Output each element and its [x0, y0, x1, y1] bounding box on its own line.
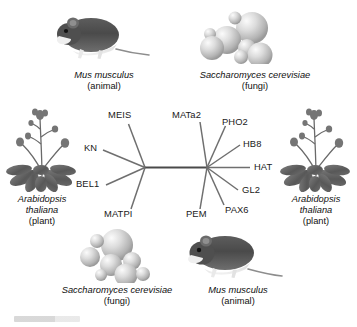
gene-label-PHO2: PHO2 [222, 117, 248, 126]
species-name: Saccharomyces cerevisiae [180, 70, 330, 81]
gene-label-BEL1: BEL1 [76, 179, 99, 188]
gene-label-KN: KN [84, 143, 97, 152]
organism-group: (plant) [276, 216, 356, 227]
organism-group: (fungi) [180, 81, 330, 92]
species-name-line2: thaliana [276, 205, 356, 216]
gene-label-PAX6: PAX6 [225, 205, 249, 214]
organism-group: (animal) [182, 296, 294, 307]
gene-label-MATPI: MATPI [104, 209, 132, 218]
gene-label-HB8: HB8 [243, 139, 262, 148]
gene-label-MEIS: MEIS [108, 110, 131, 119]
mouse-illustration-top [53, 8, 158, 66]
species-name: Mus musculus [48, 70, 160, 81]
yeast-illustration-top [190, 8, 282, 64]
mouse-illustration-bottom [183, 228, 293, 284]
gene-label-PEM: PEM [186, 209, 207, 218]
caption-mouse-bottom: Mus musculus (animal) [182, 285, 294, 307]
organism-group: (fungi) [42, 296, 192, 307]
branch-BEL1 [106, 168, 145, 186]
caption-yeast-bottom: Saccharomyces cerevisiae (fungi) [42, 285, 192, 307]
caption-plant-left: Arabidopsis thaliana (plant) [2, 194, 82, 227]
caption-yeast-top: Saccharomyces cerevisiae (fungi) [180, 70, 330, 92]
gene-label-MATa2: MATa2 [172, 110, 201, 119]
branch-PEM [200, 168, 207, 210]
branch-MATPI [131, 168, 145, 210]
phylogenetic-tree-figure: MEIS KN BEL1 MATPI MATa2 PHO2 HB8 HAT GL… [0, 0, 357, 327]
species-name: Saccharomyces cerevisiae [42, 285, 192, 296]
gene-label-HAT: HAT [254, 162, 272, 171]
gene-label-GL2: GL2 [242, 185, 260, 194]
species-name-line1: Arabidopsis [2, 194, 82, 205]
organism-group: (plant) [2, 216, 82, 227]
caption-plant-right: Arabidopsis thaliana (plant) [276, 194, 356, 227]
species-name: Mus musculus [182, 285, 294, 296]
species-name-line1: Arabidopsis [276, 194, 356, 205]
organism-group: (animal) [48, 81, 160, 92]
species-name-line2: thaliana [2, 205, 82, 216]
arabidopsis-illustration-right [280, 104, 352, 192]
figure-caption-fragment [14, 316, 80, 322]
arabidopsis-illustration-left [6, 104, 78, 192]
caption-mouse-top: Mus musculus (animal) [48, 70, 160, 92]
yeast-illustration-bottom [70, 227, 162, 283]
branch-MATa2 [200, 122, 207, 168]
